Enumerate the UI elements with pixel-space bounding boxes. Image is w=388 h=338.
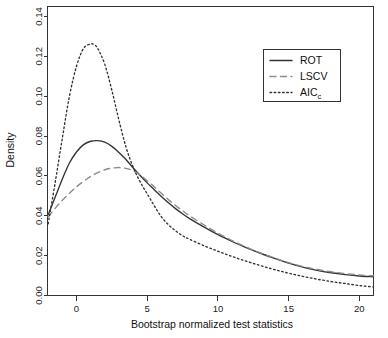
x-tick-label: 20: [354, 303, 365, 314]
x-axis-title: Bootstrap normalized test statistics: [131, 318, 293, 330]
legend-label-subscript: c: [318, 92, 322, 101]
series-curve-rot: [48, 141, 373, 277]
y-axis-title: Density: [4, 132, 16, 168]
y-tick-label: 0.00: [33, 286, 44, 305]
x-tick-label: 10: [213, 303, 224, 314]
y-tick-label: 0.04: [33, 207, 44, 226]
series-curve-lscv: [48, 168, 373, 276]
legend-label-rot: ROT: [300, 54, 323, 66]
y-tick-label: 0.12: [33, 47, 44, 66]
y-tick-label: 0.10: [33, 87, 44, 106]
legend-label-lscv: LSCV: [300, 70, 327, 82]
y-tick-label: 0.02: [33, 246, 44, 265]
legend: ROTLSCVAICc: [264, 50, 341, 102]
density-plot-figure: 0.000.020.040.060.080.100.120.1405101520…: [0, 0, 388, 338]
chart-canvas: 0.000.020.040.060.080.100.120.1405101520…: [0, 0, 388, 338]
y-tick-label: 0.08: [33, 127, 44, 146]
x-tick-label: 15: [283, 303, 294, 314]
y-tick-label: 0.14: [33, 7, 44, 26]
x-tick-label: 0: [74, 303, 79, 314]
x-tick-label: 5: [145, 303, 150, 314]
y-tick-label: 0.06: [33, 167, 44, 186]
